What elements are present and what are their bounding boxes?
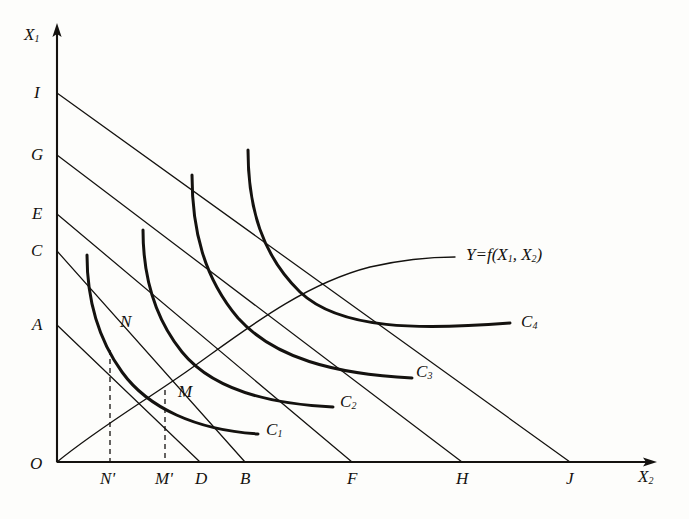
x-tick-label-H: H xyxy=(456,470,468,487)
x-tick-label-J: J xyxy=(566,470,574,487)
isoquant-curve-c1 xyxy=(87,255,258,434)
y-tick-label-C: C xyxy=(31,242,43,259)
isoquant-label-c2: C2 xyxy=(340,393,357,411)
y-tick-label-G: G xyxy=(31,146,43,163)
expansion-path-curve xyxy=(57,257,455,462)
isoquant-label-c4: C4 xyxy=(521,313,538,331)
isoquant-isocost-figure xyxy=(0,0,689,519)
x-tick-label-F: F xyxy=(347,470,358,487)
y-axis-label: X1 xyxy=(24,26,40,44)
expansion-path-label: Y=f(X1, X2) xyxy=(466,246,542,264)
x-axis-label: X2 xyxy=(638,468,654,486)
x-tick-label-Nprime: N' xyxy=(100,470,115,487)
isoquants-group xyxy=(87,150,510,434)
x-tick-label-Mprime: M' xyxy=(155,470,173,487)
origin-label: O xyxy=(30,455,42,472)
x-tick-label-B: B xyxy=(240,470,251,487)
x-tick-label-D: D xyxy=(195,470,207,487)
isocost-line-GH xyxy=(57,155,462,462)
isocost-line-CB xyxy=(57,251,245,462)
expansion-path-group xyxy=(57,257,455,462)
tangency-point-label-N: N xyxy=(120,313,132,330)
tangency-point-label-M: M xyxy=(178,383,192,400)
y-tick-label-A: A xyxy=(32,316,43,333)
isoquant-curve-c3 xyxy=(192,175,412,378)
y-tick-label-I: I xyxy=(34,84,40,101)
y-tick-label-E: E xyxy=(32,205,43,222)
isoquant-label-c3: C3 xyxy=(416,363,433,381)
isoquant-curve-c4 xyxy=(248,150,510,327)
isoquant-label-c1: C1 xyxy=(266,421,283,439)
